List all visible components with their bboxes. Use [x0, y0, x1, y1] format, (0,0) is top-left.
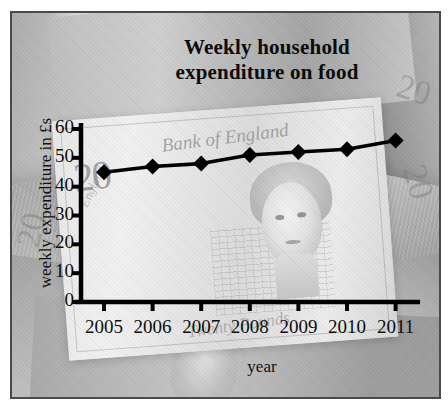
data-point-marker — [96, 164, 112, 180]
data-point-marker — [290, 144, 306, 160]
plot-area — [12, 13, 439, 397]
data-point-marker — [388, 133, 404, 149]
screenshot-root: 20 20 20 20 Bank of England England Twen… — [0, 0, 448, 413]
data-point-marker — [145, 158, 161, 174]
data-point-marker — [193, 156, 209, 172]
chart-image-frame: 20 20 20 20 Bank of England England Twen… — [10, 11, 441, 399]
data-point-marker — [242, 147, 258, 163]
data-point-marker — [339, 141, 355, 157]
line-chart: Weekly household expenditure on food wee… — [12, 13, 439, 397]
